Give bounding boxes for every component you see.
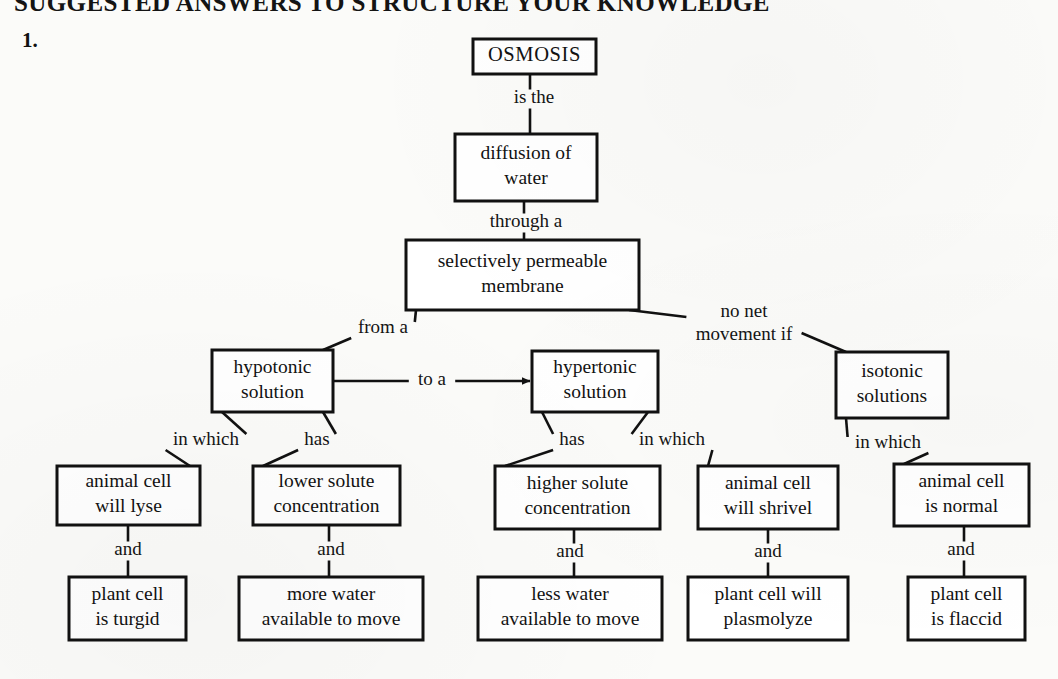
link-label: from a [358,316,409,337]
node-label: less water [531,583,609,604]
node-label: solution [564,381,627,402]
node-label: higher solute [527,472,628,493]
link-label: and [114,538,142,559]
link-label: through a [490,210,563,231]
node-label: will shrivel [724,497,813,518]
node-membrane[interactable]: selectively permeablemembrane [406,240,639,310]
link-label: and [754,540,782,561]
node-animal-flaccid[interactable]: plant cellis flaccid [908,577,1025,640]
link-lower_solute-to-more_water: and [317,525,345,577]
node-label: water [504,167,548,188]
node-hypertonic[interactable]: hypertonicsolution [532,351,658,412]
node-osmosis[interactable]: OSMOSIS [473,39,596,74]
node-lower-solute[interactable]: lower soluteconcentration [253,466,400,525]
node-label: diffusion of [480,142,572,163]
node-plant-turgid[interactable]: plant cellis turgid [69,577,186,640]
link-hypotonic-to-lower_solute: has [263,412,336,466]
node-animal-lyse[interactable]: animal cellwill lyse [57,466,200,525]
link-membrane-to-isotonic: no netmovement if [629,300,846,352]
node-label: is flaccid [931,608,1002,629]
node-label: plant cell will [714,583,822,604]
node-label: selectively permeable [438,250,607,271]
node-label: more water [287,583,376,604]
node-label: hypotonic [234,356,312,377]
node-label: lower solute [279,470,375,491]
node-label: hypertonic [553,356,637,377]
node-diffusion-of-water[interactable]: diffusion ofwater [455,134,597,201]
link-label: in which [173,428,239,449]
node-higher-solute[interactable]: higher soluteconcentration [495,466,660,529]
node-less-water[interactable]: less wateravailable to move [478,577,662,640]
node-plant-plasmolyze[interactable]: plant cell willplasmolyze [688,577,848,640]
node-label: plant cell [91,583,164,604]
node-label: will lyse [95,495,162,516]
node-label: available to move [262,608,401,629]
link-hypotonic-to-animal_lyse: in which [166,412,247,466]
link-hypertonic-to-animal_shrivel: in which [632,412,713,466]
node-isotonic[interactable]: isotonicsolutions [836,352,948,418]
link-label: and [947,538,975,559]
link-hypertonic-to-higher_solute: has [505,412,585,466]
node-label: is normal [925,495,999,516]
link-label: has [304,428,329,449]
node-layer: OSMOSISdiffusion ofwaterselectively perm… [57,39,1029,640]
link-membrane-to-hypotonic: from a [323,310,416,350]
link-animal_lyse-to-plant_turgid: and [114,525,142,577]
link-higher_solute-to-less_water: and [556,529,584,577]
node-label: solutions [857,385,927,406]
node-label: animal cell [85,470,172,491]
node-label: concentration [273,495,379,516]
node-more-water[interactable]: more wateravailable to move [239,577,423,640]
node-label: OSMOSIS [488,43,581,65]
link-animal_shrivel-to-plant_plasmolyze: and [754,529,782,577]
link-isotonic-to-animal_normal: in which [846,418,928,464]
node-label: isotonic [861,360,923,381]
osmosis-concept-map: is thethrough afrom ano netmovement ifto… [0,0,1058,679]
link-label: and [556,540,584,561]
link-label: in which [855,431,921,452]
link-label: in which [639,428,705,449]
node-label: animal cell [918,470,1005,491]
node-label: available to move [501,608,640,629]
node-animal-normal[interactable]: animal cellis normal [894,464,1029,526]
scanned-page: SUGGESTED ANSWERS TO STRUCTURE YOUR KNOW… [0,0,1058,679]
node-label: is turgid [95,608,159,629]
link-osmosis-to-diffusion_of_water: is the [514,74,555,134]
link-label: has [559,428,584,449]
link-label: no net [721,300,769,321]
node-label: solution [241,381,304,402]
node-label: membrane [481,275,563,296]
node-label: concentration [524,497,630,518]
node-animal-shrivel[interactable]: animal cellwill shrivel [698,466,838,529]
link-diffusion_of_water-to-membrane: through a [490,201,563,240]
node-hypotonic[interactable]: hypotonicsolution [212,350,333,412]
link-label: and [317,538,345,559]
node-label: animal cell [725,472,812,493]
node-label: plasmolyze [724,608,813,629]
link-label: to a [418,368,447,389]
link-label: is the [514,86,555,107]
link-hypotonic-to-hypertonic: to a [333,368,530,389]
node-label: plant cell [930,583,1003,604]
link-animal_normal-to-animal_flaccid: and [947,526,975,577]
link-label: movement if [696,323,793,344]
